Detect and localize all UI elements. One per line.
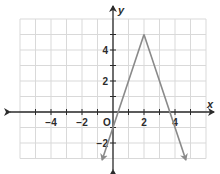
y-tick-label: 2 [102,76,108,87]
coordinate-plane: −4−22442−2 x y O [0,0,220,174]
x-tick-label: 2 [141,117,147,128]
graph-line-right-arm [144,35,186,161]
x-tick-label: −4 [45,117,57,128]
axes [10,6,214,170]
x-tick-label: −2 [76,117,88,128]
y-axis-label: y [117,4,125,16]
x-axis-label: x [206,98,214,110]
graph-line-left-arm [102,35,144,161]
origin-label: O [103,117,111,128]
y-tick-label: 4 [102,45,108,56]
